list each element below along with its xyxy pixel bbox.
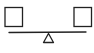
- balance-scale-svg: [0, 0, 94, 53]
- beam: [9, 32, 86, 33]
- right-square: [74, 8, 92, 27]
- fulcrum-triangle: [44, 34, 54, 43]
- balance-scale-diagram: [0, 0, 94, 53]
- left-square: [5, 8, 23, 27]
